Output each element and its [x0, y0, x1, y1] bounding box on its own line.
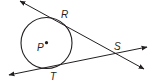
center-point-p: [45, 41, 48, 44]
label-s: S: [114, 41, 121, 52]
label-t: T: [50, 71, 57, 82]
label-r: R: [61, 9, 68, 20]
line-rs: [20, 1, 144, 69]
label-p: P: [37, 42, 44, 53]
tangent-diagram: P R S T: [0, 0, 159, 83]
line-ts: [9, 47, 147, 75]
